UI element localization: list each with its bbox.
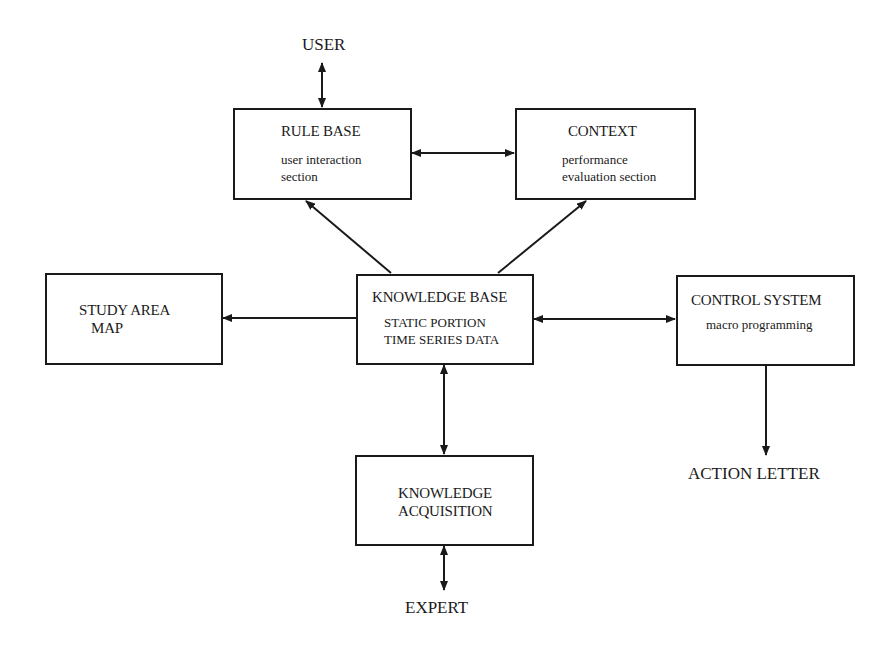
- context-box: CONTEXT performance evaluation section: [515, 108, 696, 200]
- arrow-kb-context: [498, 201, 586, 273]
- expert-label: EXPERT: [405, 598, 468, 618]
- knowledge-base-line1: STATIC PORTION: [384, 315, 486, 331]
- knowledge-base-box: KNOWLEDGE BASE STATIC PORTION TIME SERIE…: [356, 274, 534, 365]
- rule-base-box: RULE BASE user interaction section: [233, 108, 412, 200]
- control-system-line1: macro programming: [706, 317, 813, 333]
- context-line1: performance: [562, 152, 628, 168]
- study-area-line1: STUDY AREA: [79, 302, 170, 319]
- user-label: USER: [302, 35, 345, 55]
- rule-base-line1: user interaction: [281, 152, 362, 168]
- knowledge-acquisition-line2: ACQUISITION: [398, 503, 492, 520]
- knowledge-acquisition-box: KNOWLEDGE ACQUISITION: [355, 455, 534, 546]
- rule-base-line2: section: [281, 169, 318, 185]
- knowledge-acquisition-line1: KNOWLEDGE: [398, 485, 492, 502]
- context-line2: evaluation section: [562, 169, 656, 185]
- control-system-title: CONTROL SYSTEM: [691, 292, 821, 309]
- arrow-kb-rulebase: [306, 201, 391, 273]
- knowledge-base-title: KNOWLEDGE BASE: [372, 289, 507, 306]
- context-title: CONTEXT: [568, 123, 637, 140]
- control-system-box: CONTROL SYSTEM macro programming: [676, 275, 855, 366]
- action-letter-label: ACTION LETTER: [688, 464, 820, 484]
- knowledge-base-line2: TIME SERIES DATA: [384, 332, 499, 348]
- study-area-line2: MAP: [91, 320, 123, 337]
- study-area-map-box: STUDY AREA MAP: [45, 273, 223, 365]
- rule-base-title: RULE BASE: [281, 123, 360, 140]
